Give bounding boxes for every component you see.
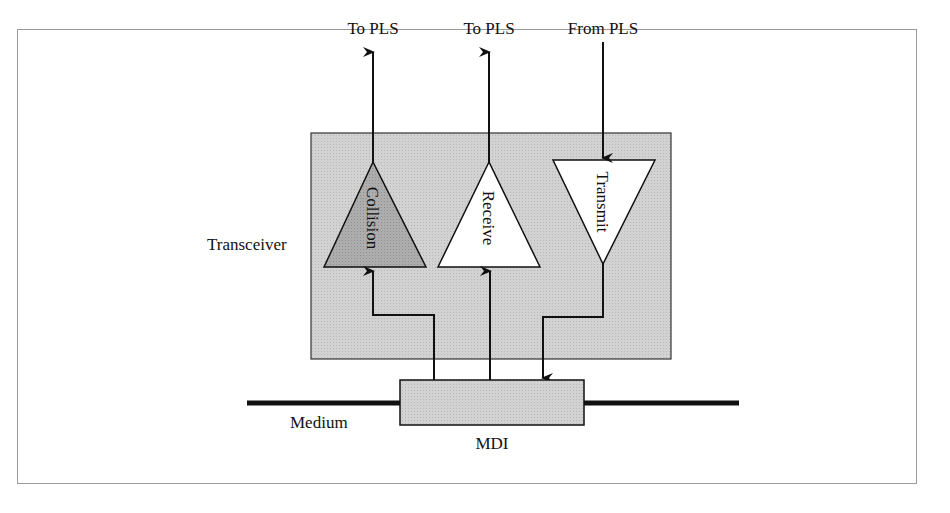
collision-label: Collision [363,187,382,250]
medium-label: Medium [290,413,348,432]
receive-label: Receive [479,191,498,246]
from-pls-label: From PLS [568,19,638,38]
transceiver-diagram: To PLS To PLS From PLS Transceiver Mediu… [0,0,950,513]
transceiver-label: Transceiver [207,235,287,254]
to-pls-label-collision: To PLS [347,19,398,38]
mdi-label: MDI [475,434,508,453]
transmit-label: Transmit [593,172,612,233]
to-pls-label-receive: To PLS [463,19,514,38]
mdi-box [400,380,584,425]
